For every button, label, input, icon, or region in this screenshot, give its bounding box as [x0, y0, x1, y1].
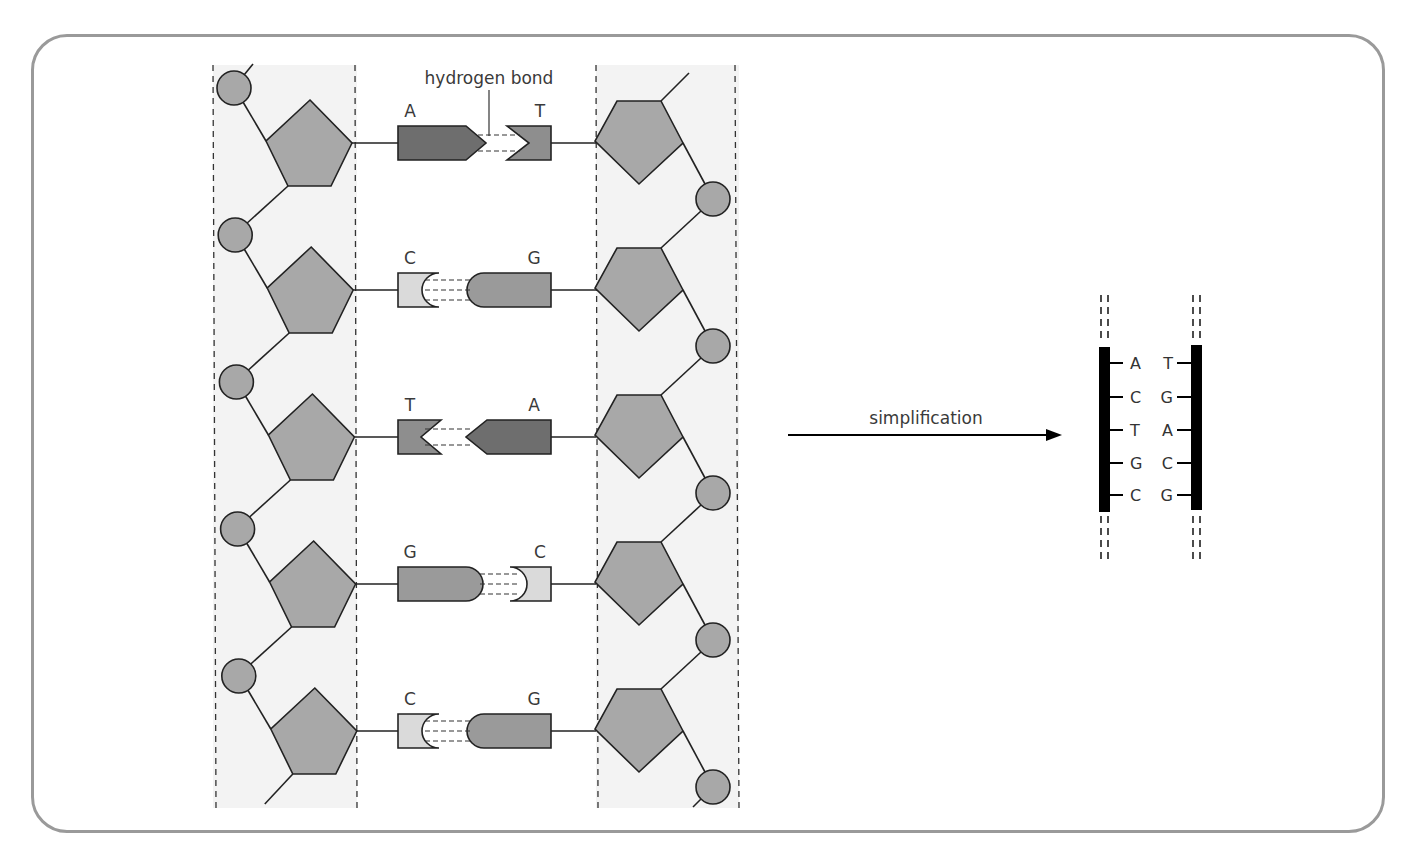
- phosphate-circle: [217, 71, 251, 105]
- nucleobase-T: [507, 126, 551, 160]
- base-pair-row: GC: [356, 542, 596, 601]
- base-label-left: T: [404, 395, 416, 415]
- base-pair-row: CG: [357, 689, 596, 748]
- nucleobase-C: [398, 273, 439, 307]
- base-label-left: A: [404, 101, 416, 121]
- base-pairs: ATCGTAGCCG: [352, 101, 596, 748]
- arrowhead-icon: [1046, 429, 1062, 441]
- phosphate-circle: [696, 182, 730, 216]
- left-strand-bar: [1099, 347, 1110, 512]
- base-label-right: G: [527, 248, 540, 268]
- phosphate-circle: [696, 476, 730, 510]
- phosphate-circle: [221, 512, 255, 546]
- nucleobase-T: [398, 420, 441, 454]
- base-label-left: C: [404, 689, 416, 709]
- simplified-dna: ATCGTAGCCG: [1099, 295, 1202, 562]
- simplified-base-right: A: [1162, 421, 1173, 440]
- base-pair-row: AT: [352, 101, 596, 160]
- right-strand-bar: [1191, 345, 1202, 510]
- base-label-left: C: [404, 248, 416, 268]
- nucleobase-G: [398, 567, 483, 601]
- simplified-base-left: T: [1129, 421, 1140, 440]
- nucleobase-G: [467, 273, 551, 307]
- phosphate-circle: [218, 218, 252, 252]
- phosphate-circle: [219, 365, 253, 399]
- phosphate-circle: [696, 770, 730, 804]
- dna-diagram: ATCGTAGCCG hydrogen bond simplification …: [0, 0, 1415, 862]
- base-label-right: T: [534, 101, 546, 121]
- nucleobase-C: [398, 714, 439, 748]
- simplified-base-left: A: [1130, 354, 1141, 373]
- simplified-base-left: C: [1130, 486, 1141, 505]
- base-label-left: G: [403, 542, 416, 562]
- simplified-base-right: G: [1161, 388, 1173, 407]
- simplified-base-left: C: [1130, 388, 1141, 407]
- nucleobase-G: [467, 714, 551, 748]
- base-pair-row: TA: [354, 395, 596, 454]
- nucleobase-A: [398, 126, 486, 160]
- simplification-label: simplification: [869, 408, 982, 428]
- phosphate-circle: [696, 623, 730, 657]
- simplified-base-left: G: [1130, 454, 1142, 473]
- phosphate-circle: [222, 659, 256, 693]
- base-label-right: G: [527, 689, 540, 709]
- nucleobase-A: [466, 420, 551, 454]
- hydrogen-bond-label: hydrogen bond: [425, 68, 554, 88]
- simplified-base-right: G: [1161, 486, 1173, 505]
- simplified-base-right: C: [1162, 454, 1173, 473]
- base-label-right: C: [534, 542, 546, 562]
- base-label-right: A: [528, 395, 540, 415]
- phosphate-circle: [696, 329, 730, 363]
- base-pair-row: CG: [353, 248, 596, 307]
- simplified-base-right: T: [1162, 354, 1173, 373]
